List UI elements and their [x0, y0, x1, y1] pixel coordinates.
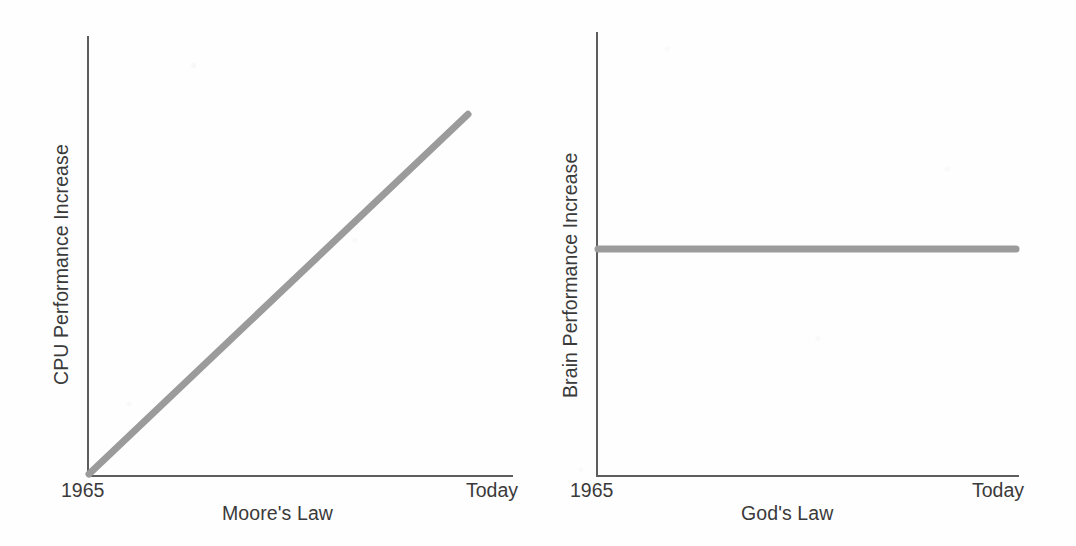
- y-axis-label-gods-law: Brain Performance Increase: [561, 153, 581, 398]
- x-tick-label-today-gods-law: Today: [972, 481, 1024, 501]
- y-axis-label-moores-law: CPU Performance Increase: [52, 144, 72, 385]
- chart-panel-gods-law: Brain Performance Increase 1965 Today Go…: [538, 0, 1076, 546]
- data-line-cpu-performance: [0, 0, 538, 546]
- chart-panel-moores-law: CPU Performance Increase 1965 Today Moor…: [0, 0, 538, 546]
- x-axis-label-moores-law: Moore's Law: [222, 504, 333, 524]
- data-line-brain-performance: [538, 0, 1076, 546]
- x-tick-label-today-moores-law: Today: [466, 481, 518, 501]
- x-tick-label-1965-gods-law: 1965: [570, 481, 613, 501]
- x-axis-label-gods-law: God's Law: [741, 504, 833, 524]
- x-tick-label-1965-moores-law: 1965: [61, 481, 104, 501]
